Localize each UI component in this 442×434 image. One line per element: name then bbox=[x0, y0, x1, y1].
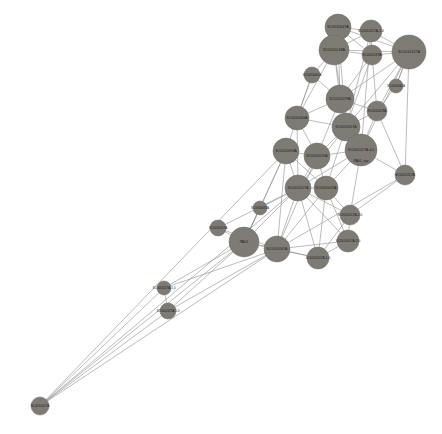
graph-node[interactable] bbox=[264, 236, 290, 262]
graph-node[interactable] bbox=[395, 165, 415, 185]
graph-node[interactable] bbox=[304, 67, 320, 83]
graph-node[interactable] bbox=[253, 201, 267, 215]
graph-node[interactable] bbox=[31, 397, 49, 415]
graph-edge bbox=[40, 242, 244, 406]
graph-node[interactable] bbox=[340, 205, 360, 225]
graph-edge bbox=[168, 249, 277, 311]
graph-edge bbox=[40, 249, 277, 406]
graph-node[interactable] bbox=[392, 35, 426, 69]
graph-node[interactable] bbox=[319, 35, 349, 65]
graph-node[interactable] bbox=[160, 303, 176, 319]
graph-node[interactable] bbox=[210, 220, 226, 236]
graph-edge bbox=[405, 52, 409, 175]
graph-node[interactable] bbox=[307, 247, 329, 269]
graph-edge bbox=[40, 188, 298, 406]
graph-node[interactable] bbox=[345, 134, 377, 166]
graph-node[interactable] bbox=[285, 175, 311, 201]
graph-edge bbox=[40, 288, 164, 406]
graph-node[interactable] bbox=[337, 230, 359, 252]
graph-node[interactable] bbox=[273, 138, 299, 164]
graph-node[interactable] bbox=[362, 45, 382, 65]
graph-node[interactable] bbox=[157, 281, 171, 295]
graph-node[interactable] bbox=[326, 85, 354, 113]
node-layer bbox=[31, 14, 426, 415]
graph-node[interactable] bbox=[304, 143, 330, 169]
graph-edge bbox=[277, 151, 286, 249]
graph-edge bbox=[40, 311, 168, 406]
network-graph-svg: SC0010047ASC0010117A-1.0SC0010149ASC0110… bbox=[0, 0, 442, 434]
graph-edge bbox=[164, 249, 277, 288]
graph-node[interactable] bbox=[367, 101, 387, 121]
graph-edge bbox=[168, 242, 244, 311]
graph-node[interactable] bbox=[389, 79, 403, 93]
graph-edge bbox=[277, 156, 317, 249]
graph-node[interactable] bbox=[360, 20, 382, 42]
graph-edge bbox=[377, 111, 405, 175]
graph-node[interactable] bbox=[229, 227, 259, 257]
graph-edge bbox=[40, 151, 286, 406]
graph-node[interactable] bbox=[285, 106, 309, 130]
network-graph-canvas: SC0010047ASC0010117A-1.0SC0010149ASC0110… bbox=[0, 0, 442, 434]
graph-node[interactable] bbox=[314, 176, 338, 200]
